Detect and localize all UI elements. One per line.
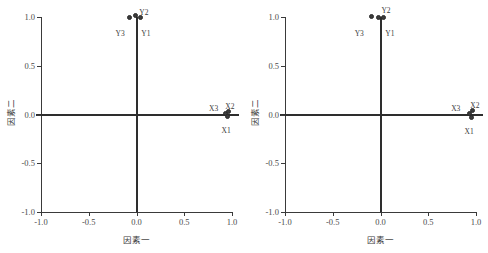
x-tick	[232, 212, 233, 216]
y-tick-label: 0.0	[268, 110, 279, 120]
horizontal-zero-line	[280, 114, 483, 116]
data-point-label-x2: X2	[470, 101, 479, 110]
y-tick-label: -0.5	[266, 158, 279, 168]
y-tick	[281, 163, 285, 164]
y-tick-label: 1.0	[24, 12, 35, 22]
x-tick-label: -1.0	[278, 217, 291, 227]
y-tick-label: -0.5	[22, 158, 35, 168]
data-point-y1	[381, 15, 386, 20]
y-tick	[37, 66, 41, 67]
factor-loading-plot-right: -1.0-0.50.00.51.01.00.50.0-0.5-1.0Y3Y2Y1…	[244, 0, 488, 253]
y-tick	[37, 115, 41, 116]
factor-loading-plot-left: -1.0-0.50.00.51.01.00.50.0-0.5-1.0Y3Y2Y1…	[0, 0, 244, 253]
x-tick	[381, 212, 382, 216]
y-tick	[281, 17, 285, 18]
y-tick	[37, 17, 41, 18]
data-point-y1	[138, 15, 143, 20]
y-tick	[281, 115, 285, 116]
horizontal-zero-line	[36, 114, 239, 116]
x-tick-label: 0.5	[179, 217, 190, 227]
y-tick-label: 0.0	[24, 110, 35, 120]
y-tick-label: -1.0	[22, 207, 35, 217]
data-point-x1	[469, 115, 474, 120]
y-tick-label: 0.5	[24, 61, 35, 71]
x-tick	[476, 212, 477, 216]
x-tick	[333, 212, 334, 216]
data-point-label-y1: Y1	[141, 29, 150, 38]
data-point-label-y2: Y2	[381, 6, 390, 15]
x-axis-title: 因素一	[285, 233, 476, 245]
y-tick-label: 1.0	[268, 12, 279, 22]
data-point-label-x1: X1	[465, 127, 474, 136]
data-point-label-y1: Y1	[385, 29, 394, 38]
x-tick-label: -0.5	[326, 217, 339, 227]
x-tick-label: -0.5	[82, 217, 95, 227]
factor-loading-figure: -1.0-0.50.00.51.01.00.50.0-0.5-1.0Y3Y2Y1…	[0, 0, 488, 253]
y-tick-label: -1.0	[266, 207, 279, 217]
x-tick-label: 1.0	[227, 217, 238, 227]
y-tick	[281, 66, 285, 67]
x-tick	[428, 212, 429, 216]
x-axis-title: 因素一	[41, 233, 232, 245]
y-tick	[37, 212, 41, 213]
x-tick-label: 0.0	[375, 217, 386, 227]
x-tick	[184, 212, 185, 216]
x-tick-label: -1.0	[34, 217, 47, 227]
x-tick	[41, 212, 42, 216]
data-point-label-x2: X2	[225, 102, 234, 111]
x-tick	[285, 212, 286, 216]
data-point-label-y3: Y3	[355, 29, 364, 38]
y-tick	[281, 212, 285, 213]
data-point-label-y3: Y3	[115, 29, 124, 38]
data-point-y3	[369, 14, 374, 19]
x-tick-label: 1.0	[471, 217, 482, 227]
data-point-label-x1: X1	[221, 126, 230, 135]
x-tick-label: 0.5	[423, 217, 434, 227]
data-point-label-x3: X3	[451, 104, 460, 113]
y-tick	[37, 163, 41, 164]
x-tick	[89, 212, 90, 216]
y-tick-label: 0.5	[268, 61, 279, 71]
x-tick-label: 0.0	[131, 217, 142, 227]
plot-area-left: -1.0-0.50.00.51.01.00.50.0-0.5-1.0Y3Y2Y1…	[41, 17, 232, 212]
plot-area-right: -1.0-0.50.00.51.01.00.50.0-0.5-1.0Y3Y2Y1…	[285, 17, 476, 212]
y-axis-title: 因素二	[248, 99, 260, 126]
data-point-x1	[225, 114, 230, 119]
x-tick	[137, 212, 138, 216]
data-point-label-x3: X3	[209, 104, 218, 113]
y-axis-title: 因素二	[4, 99, 16, 126]
data-point-y3	[127, 15, 132, 20]
